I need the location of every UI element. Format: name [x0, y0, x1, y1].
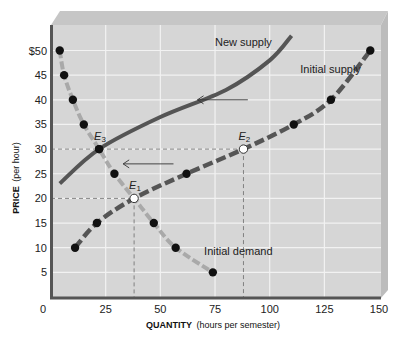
y-axis-title: PRICE (per hour) — [5, 142, 22, 213]
plot-bevel-top — [51, 11, 388, 25]
initial-demand-label: Initial demand — [204, 245, 273, 257]
y-tick-label: 30 — [35, 143, 47, 155]
y-tick-label: 20 — [35, 192, 47, 204]
y-tick-label: 10 — [35, 242, 47, 254]
data-point — [69, 96, 77, 104]
data-point — [60, 71, 68, 79]
y-tick-label: 45 — [35, 69, 47, 81]
y-tick-label: 25 — [35, 168, 47, 180]
data-point — [80, 120, 88, 128]
data-point — [71, 244, 79, 252]
x-tick-label: 125 — [315, 303, 333, 315]
data-point — [366, 46, 374, 54]
supply-demand-chart: E1E2E3 025507510012515051015202530354045… — [0, 0, 397, 337]
new-supply-label: New supply — [215, 36, 272, 48]
x-tick-label: 50 — [154, 303, 166, 315]
x-tick-label: 0 — [40, 303, 46, 315]
y-tick-label: 40 — [35, 94, 47, 106]
data-point — [327, 96, 335, 104]
data-point — [209, 268, 217, 276]
data-point — [150, 219, 158, 227]
y-tick-label: 5 — [41, 266, 47, 278]
data-point — [56, 46, 64, 54]
data-point — [171, 244, 179, 252]
data-point — [290, 120, 298, 128]
x-tick-label: 100 — [261, 303, 279, 315]
y-tick-label: 15 — [35, 217, 47, 229]
x-tick-label: 150 — [370, 303, 388, 315]
data-point — [182, 170, 190, 178]
x-tick-label: 25 — [100, 303, 112, 315]
data-point — [110, 170, 118, 178]
x-tick-label: 75 — [209, 303, 221, 315]
x-axis-title: QUANTITY (hours per semester) — [146, 314, 280, 331]
data-point — [93, 219, 101, 227]
initial-supply-label: Initial supply — [300, 63, 361, 75]
equilibrium-point-e1 — [130, 194, 138, 202]
y-tick-label: 35 — [35, 118, 47, 130]
equilibrium-point-e2 — [239, 145, 247, 153]
plot-bevel-side — [381, 11, 388, 298]
y-tick-label: $50 — [29, 45, 47, 57]
equilibrium-point-e3 — [95, 145, 103, 153]
